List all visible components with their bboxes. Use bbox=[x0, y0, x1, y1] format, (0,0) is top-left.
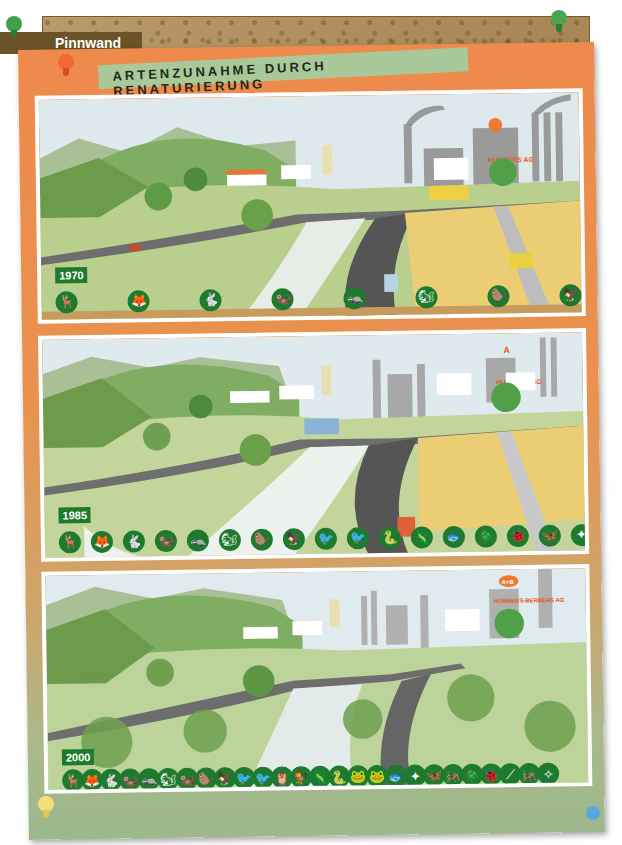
poster: ARTENZUNAHME DURCH RENATURIERUNG HUBBERS… bbox=[18, 42, 605, 840]
badger-icon: 🦡 bbox=[187, 529, 209, 551]
green-pin-icon bbox=[6, 16, 22, 38]
squirrel-icon: 🐿 bbox=[219, 529, 241, 551]
newt-icon: 🦎 bbox=[411, 526, 433, 548]
green-pin-icon bbox=[551, 10, 567, 32]
hare-icon: 🐇 bbox=[199, 289, 221, 311]
fox-icon: 🦊 bbox=[127, 290, 149, 312]
factory-logo-2000: A+B bbox=[502, 579, 514, 585]
beetle-icon: 🪲 bbox=[475, 525, 497, 547]
year-badge-1970: 1970 bbox=[55, 267, 88, 283]
deer-icon: 🦌 bbox=[55, 291, 77, 313]
butterfly-icon: 🦋 bbox=[539, 524, 561, 546]
fox-icon: 🦊 bbox=[91, 531, 113, 553]
orange-pin-icon bbox=[58, 54, 74, 76]
panel-1970: HUBBERS AG 1970 🦌 🦊 🐇 🦦 🦡 🐿 bbox=[35, 88, 586, 324]
poster-title: ARTENZUNAHME DURCH RENATURIERUNG bbox=[98, 47, 469, 89]
year-badge-1985: 1985 bbox=[58, 507, 91, 523]
bird-of-prey-icon: 🦅 bbox=[283, 528, 305, 550]
fish-icon: 🐟 bbox=[443, 526, 465, 548]
dragonfly-icon: ✦ bbox=[571, 524, 589, 546]
bird-of-prey-icon: 🦅 bbox=[559, 284, 581, 306]
mayfly-icon: ✧ bbox=[537, 763, 559, 785]
beaver-icon: 🦫 bbox=[487, 285, 509, 307]
marten-icon: 🦦 bbox=[271, 288, 293, 310]
yellow-pin-icon bbox=[38, 796, 54, 818]
squirrel-icon: 🐿 bbox=[415, 286, 437, 308]
bug-icon: 🐞 bbox=[507, 525, 529, 547]
panel-2000: A+B HUBBERS-BERBERS AG 2000 🦌 🦊 🐇 🦦 🦡 🐿 … bbox=[41, 564, 592, 794]
heron-icon: 🐦 bbox=[315, 528, 337, 550]
snake-icon: 🐍 bbox=[379, 527, 401, 549]
landscape-2000-illustration: A+B HUBBERS-BERBERS AG bbox=[45, 568, 588, 794]
factory-sign-2000: HUBBERS-BERBERS AG bbox=[494, 597, 565, 604]
year-badge-2000: 2000 bbox=[62, 749, 95, 765]
factory-logo-1985: A bbox=[503, 345, 510, 355]
badger-icon: 🦡 bbox=[343, 287, 365, 309]
beaver-icon: 🦫 bbox=[251, 529, 273, 551]
deer-icon: 🦌 bbox=[59, 531, 81, 553]
panel-1985: A HUBBERS AG 1985 🦌 🦊 🐇 🦦 🦡 🐿 🦫 🦅 bbox=[38, 328, 589, 562]
blue-pin-icon bbox=[586, 806, 600, 820]
hare-icon: 🐇 bbox=[123, 530, 145, 552]
heron-icon: 🐦 bbox=[347, 527, 369, 549]
marten-icon: 🦦 bbox=[155, 530, 177, 552]
